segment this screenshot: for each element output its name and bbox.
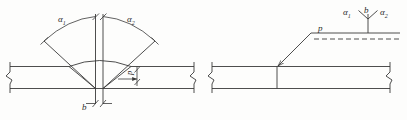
leader-line [278, 33, 311, 66]
label-angle-alpha1-left: α1 [58, 14, 66, 26]
right-weld-symbol-group [208, 11, 400, 94]
label-root-gap-b-right: b [364, 5, 369, 15]
angle-leader-right [103, 41, 155, 89]
technical-drawing-svg: α1 α2 b p α1 b α2 p [0, 0, 407, 120]
label-root-face-p-right: p [317, 23, 323, 33]
angle-dimension-arc-left [44, 17, 96, 42]
left-weld-joint-group [6, 14, 196, 108]
label-root-face-p-left: p [124, 71, 134, 76]
label-root-gap-b-left: b [82, 102, 87, 112]
label-angle-alpha1-right: α1 [343, 7, 351, 19]
angle-leader-left [44, 41, 96, 89]
weld-symbol-arm-right [368, 11, 378, 20]
label-angle-alpha2-right: α2 [380, 7, 388, 19]
label-angle-alpha2-left: α2 [127, 14, 135, 26]
weld-bead-cap [69, 61, 131, 67]
figure-canvas: α1 α2 b p α1 b α2 p [0, 0, 407, 120]
